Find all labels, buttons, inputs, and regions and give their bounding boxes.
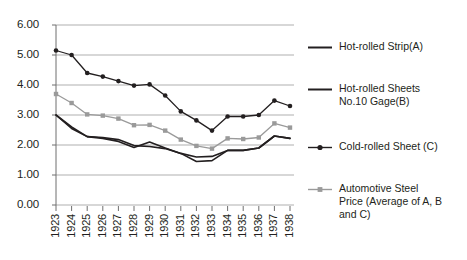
x-axis-tick-labels: 1923192419251926192719281929193019311932… xyxy=(0,0,300,260)
x-axis-label-1930: 1930 xyxy=(159,214,170,238)
x-axis-label-1938: 1938 xyxy=(284,214,295,238)
legend-item-1[interactable]: Hot-rolled Strip(A) xyxy=(307,40,465,54)
line-marker-square-icon xyxy=(307,183,333,196)
legend-item-2[interactable]: Hot-rolled Sheets No.10 Gage(B) xyxy=(307,82,465,108)
legend-label: Hot-rolled Strip(A) xyxy=(339,40,423,53)
x-axis-label-1935: 1935 xyxy=(237,214,248,238)
x-axis-label-1923: 1923 xyxy=(50,214,61,238)
x-axis-label-1926: 1926 xyxy=(97,214,108,238)
legend-label: Hot-rolled Sheets No.10 Gage(B) xyxy=(339,82,420,108)
x-axis-label-1924: 1924 xyxy=(66,214,77,238)
legend-label: Automotive Steel Price (Average of A, B … xyxy=(339,182,442,222)
x-axis-label-1928: 1928 xyxy=(128,214,139,238)
x-axis-label-1932: 1932 xyxy=(190,214,201,238)
chart-legend: Hot-rolled Strip(A)Hot-rolled Sheets No.… xyxy=(307,0,467,260)
line-swatch-icon xyxy=(307,83,333,96)
x-axis-label-1937: 1937 xyxy=(268,214,279,238)
legend-item-4[interactable]: Automotive Steel Price (Average of A, B … xyxy=(307,182,465,222)
x-axis-label-1936: 1936 xyxy=(253,214,264,238)
x-axis-label-1934: 1934 xyxy=(222,214,233,238)
x-axis-label-1931: 1931 xyxy=(175,214,186,238)
x-axis-label-1925: 1925 xyxy=(81,214,92,238)
line-marker-circle-icon xyxy=(307,141,333,154)
x-axis-label-1927: 1927 xyxy=(112,214,123,238)
legend-item-3[interactable]: Cold-rolled Sheet (C) xyxy=(307,140,465,154)
line-swatch-icon xyxy=(307,41,333,54)
legend-label: Cold-rolled Sheet (C) xyxy=(339,140,438,153)
x-axis-label-1933: 1933 xyxy=(206,214,217,238)
chart-plot-area: 0.001.002.003.004.005.006.00 19231924192… xyxy=(0,0,300,260)
chart-figure: 0.001.002.003.004.005.006.00 19231924192… xyxy=(0,0,467,260)
x-axis-label-1929: 1929 xyxy=(144,214,155,238)
